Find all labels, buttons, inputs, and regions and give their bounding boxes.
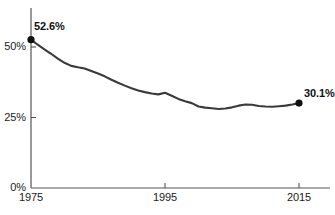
x-axis-ticks [165,183,299,188]
data-series-line [31,40,299,109]
end-value-annotation: 30.1% [304,87,335,99]
end-point-marker [295,100,302,107]
y-axis-ticks [31,47,36,118]
start-value-annotation: 52.6% [34,20,65,32]
x-tick-label-1975: 1975 [1,191,61,203]
y-tick-label-25: 25% [0,111,26,123]
y-tick-label-50: 50% [0,40,26,52]
x-tick-label-2015: 2015 [269,191,329,203]
start-point-marker [27,36,34,43]
axes-group [31,8,330,188]
x-tick-label-1995: 1995 [135,191,195,203]
